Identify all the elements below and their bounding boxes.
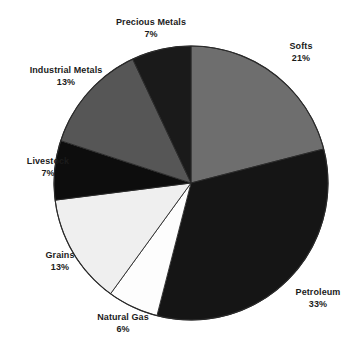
pie-label-name-softs: Softs	[256, 40, 346, 52]
pie-label-livestock: Livestock 7%	[6, 155, 90, 179]
pie-label-name-precious-metals: Precious Metals	[96, 16, 206, 28]
pie-chart: Precious Metals 7% Softs 21% Industrial …	[0, 0, 357, 351]
pie-label-name-grains: Grains	[22, 249, 98, 261]
pie-label-name-natural-gas: Natural Gas	[74, 311, 172, 323]
pie-label-pct-natural-gas: 6%	[74, 323, 172, 335]
pie-label-softs: Softs 21%	[256, 40, 346, 64]
pie-label-precious-metals: Precious Metals 7%	[96, 16, 206, 40]
pie-label-name-livestock: Livestock	[6, 155, 90, 167]
pie-label-pct-petroleum: 33%	[280, 298, 356, 310]
pie-label-grains: Grains 13%	[22, 249, 98, 273]
pie-label-petroleum: Petroleum 33%	[280, 286, 356, 310]
pie-label-natural-gas: Natural Gas 6%	[74, 311, 172, 335]
pie-label-name-petroleum: Petroleum	[280, 286, 356, 298]
pie-label-pct-grains: 13%	[22, 261, 98, 273]
pie-label-pct-livestock: 7%	[6, 167, 90, 179]
pie-label-name-industrial-metals: Industrial Metals	[8, 64, 124, 76]
pie-label-industrial-metals: Industrial Metals 13%	[8, 64, 124, 88]
pie-label-pct-softs: 21%	[256, 52, 346, 64]
pie-label-pct-precious-metals: 7%	[96, 28, 206, 40]
pie-label-pct-industrial-metals: 13%	[8, 76, 124, 88]
